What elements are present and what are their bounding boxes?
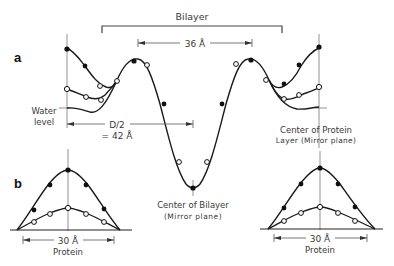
distance-36-label: 36 Å (185, 38, 206, 49)
right-protein-width-label: 30 Å (310, 233, 331, 244)
half-period-arrow (67, 120, 193, 128)
right-curve-open (269, 80, 319, 99)
right-curve-filled (269, 48, 319, 88)
half-period-label: D/2 (109, 120, 125, 130)
bilayer-bracket (102, 26, 282, 33)
panel-a-label: a (14, 50, 22, 65)
panel-a-filled-points (64, 44, 321, 190)
panel-b-right-plot (260, 151, 383, 230)
panel-a-open-points (64, 62, 321, 165)
center-protein-label: Center of Protein (280, 125, 352, 135)
center-protein-mirror-label: Layer (Mirror plane) (276, 136, 356, 145)
panel-b-left-plot (10, 149, 132, 231)
left-protein-width-label: 30 Å (58, 235, 79, 246)
electron-density-profile-diagram: a b Bilayer 36 Å (0, 0, 394, 266)
bilayer-label: Bilayer (176, 11, 209, 22)
panel-a-axes (59, 34, 327, 196)
left-protein-caption: Protein (53, 247, 83, 257)
center-bilayer-mirror-label: (Mirror plane) (164, 212, 222, 221)
left-curve-water (67, 80, 117, 112)
panel-b-label: b (14, 176, 22, 191)
right-curve-water (269, 80, 319, 109)
water-level-label: Water (31, 106, 57, 116)
panel-a-curves (67, 48, 319, 188)
center-bilayer-label: Center of Bilayer (157, 200, 229, 210)
half-period-value: = 42 Å (102, 130, 134, 141)
left-curve-filled (67, 48, 117, 88)
right-protein-caption: Protein (305, 245, 335, 255)
water-level-label-2: level (34, 117, 54, 127)
